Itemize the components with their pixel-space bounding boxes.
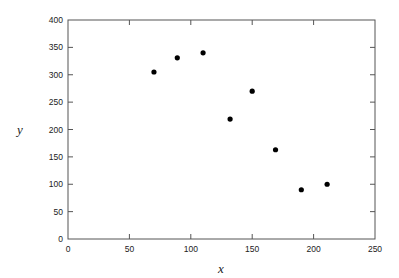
x-tick-label: 100 xyxy=(184,244,198,254)
y-tick-label: 0 xyxy=(58,234,63,244)
plot-frame xyxy=(68,20,375,239)
y-axis-label: y xyxy=(15,122,23,137)
y-axis-ticks: 050100150200250300350400 xyxy=(49,15,375,244)
data-point xyxy=(151,69,156,74)
y-tick-label: 50 xyxy=(54,207,64,217)
y-tick-label: 200 xyxy=(49,125,63,135)
x-tick-label: 150 xyxy=(245,244,259,254)
x-tick-label: 200 xyxy=(307,244,321,254)
y-tick-label: 150 xyxy=(49,152,63,162)
y-tick-label: 300 xyxy=(49,70,63,80)
y-tick-label: 250 xyxy=(49,97,63,107)
x-tick-label: 0 xyxy=(66,244,71,254)
x-tick-label: 250 xyxy=(368,244,382,254)
data-point xyxy=(273,147,278,152)
y-tick-label: 400 xyxy=(49,15,63,25)
data-point xyxy=(200,50,205,55)
y-tick-label: 100 xyxy=(49,179,63,189)
data-point xyxy=(250,89,255,94)
y-tick-label: 350 xyxy=(49,42,63,52)
plot-border xyxy=(68,20,375,239)
scatter-chart: 050100150200250 050100150200250300350400… xyxy=(0,0,399,278)
x-axis-ticks: 050100150200250 xyxy=(66,20,383,254)
data-point xyxy=(175,55,180,60)
data-point xyxy=(299,187,304,192)
x-tick-label: 50 xyxy=(125,244,135,254)
x-axis-label: x xyxy=(217,261,224,276)
data-points xyxy=(151,50,329,192)
data-point xyxy=(227,116,232,121)
data-point xyxy=(325,182,330,187)
